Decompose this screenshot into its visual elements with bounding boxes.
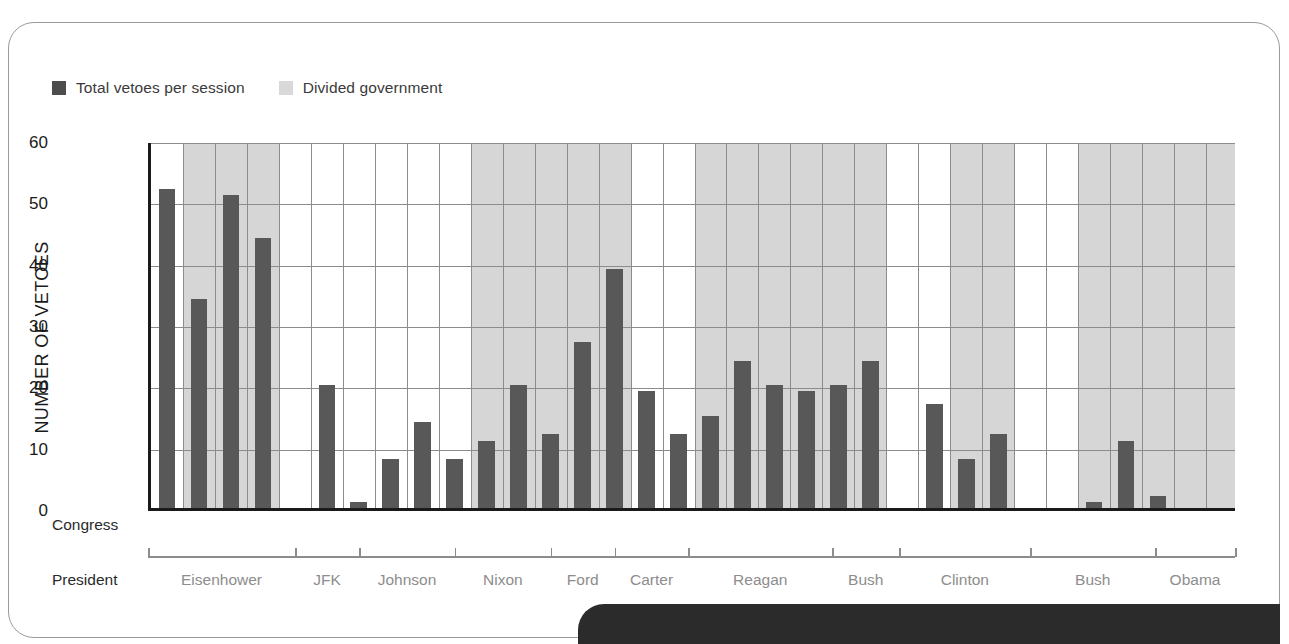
bar: [223, 195, 240, 508]
legend-item-total-vetoes: Total vetoes per session: [52, 79, 245, 97]
gridline-vertical: [343, 143, 344, 508]
president-tick: [688, 548, 690, 557]
president-label: Eisenhower: [181, 571, 262, 589]
gridline-vertical: [631, 143, 632, 508]
gridline-vertical: [695, 143, 696, 508]
gridline-horizontal: [151, 327, 1235, 328]
congress-axis: 85th90th95th100th105th110th: [0, 513, 1289, 543]
gridline-vertical: [1046, 143, 1047, 508]
gridline-vertical: [183, 143, 184, 508]
bar: [414, 422, 431, 508]
president-tick: [899, 548, 901, 557]
gridline-horizontal: [151, 450, 1235, 451]
president-tick: [1235, 548, 1237, 557]
bar: [542, 434, 559, 508]
president-tick: [359, 548, 361, 557]
president-label: Carter: [630, 571, 673, 589]
bar: [926, 404, 943, 508]
bar: [702, 416, 719, 508]
legend-swatch-icon-total-vetoes: [52, 81, 66, 95]
y-axis-tick-label: 30: [0, 317, 48, 337]
president-label: Nixon: [483, 571, 523, 589]
gridline-vertical: [375, 143, 376, 508]
bar: [191, 299, 208, 508]
gridline-vertical: [439, 143, 440, 508]
bar: [606, 269, 623, 508]
gridline-horizontal: [151, 388, 1235, 389]
gridline-vertical: [1206, 143, 1207, 508]
bar: [1086, 502, 1103, 508]
bar: [766, 385, 783, 508]
gridline-vertical: [279, 143, 280, 508]
bar: [350, 502, 367, 508]
president-label: Bush: [1075, 571, 1110, 589]
bar: [990, 434, 1007, 508]
president-row-title: President: [52, 571, 117, 589]
president-label: Clinton: [941, 571, 989, 589]
president-label: Ford: [567, 571, 599, 589]
gridline-horizontal: [151, 143, 1235, 144]
president-tick: [1155, 548, 1157, 557]
president-label: Obama: [1170, 571, 1221, 589]
gridline-vertical: [1014, 143, 1015, 508]
president-axis-line: [148, 556, 1235, 558]
bar: [510, 385, 527, 508]
y-axis-tick-label: 40: [0, 256, 48, 276]
bar: [958, 459, 975, 508]
gridline-vertical: [726, 143, 727, 508]
gridline-horizontal: [151, 204, 1235, 205]
bar: [1118, 441, 1135, 508]
gridline-vertical: [758, 143, 759, 508]
gridline-vertical: [1078, 143, 1079, 508]
bar: [382, 459, 399, 508]
y-axis-tick-label: 50: [0, 194, 48, 214]
bar: [255, 238, 272, 508]
gridline-vertical: [567, 143, 568, 508]
gridline-vertical: [1142, 143, 1143, 508]
bar: [830, 385, 847, 508]
y-axis-tick-label: 20: [0, 378, 48, 398]
gridline-vertical: [311, 143, 312, 508]
bar: [159, 189, 176, 508]
y-axis-tick-label: 60: [0, 133, 48, 153]
chart-legend: Total vetoes per session Divided governm…: [52, 78, 442, 98]
bar: [862, 361, 879, 508]
divided-government-band: [1078, 143, 1235, 508]
bar: [670, 434, 687, 508]
gridline-vertical: [982, 143, 983, 508]
president-tick: [615, 548, 617, 557]
president-tick: [551, 548, 553, 557]
gridline-vertical: [503, 143, 504, 508]
bar: [798, 391, 815, 508]
president-tick: [455, 548, 457, 557]
bar: [446, 459, 463, 508]
vetoes-chart: Total vetoes per session Divided governm…: [0, 0, 1289, 644]
gridline-vertical: [663, 143, 664, 508]
plot-area: [148, 143, 1235, 511]
gridline-vertical: [1174, 143, 1175, 508]
y-axis-tick-label: 10: [0, 440, 48, 460]
gridline-vertical: [822, 143, 823, 508]
gridline-vertical: [854, 143, 855, 508]
gridline-vertical: [1110, 143, 1111, 508]
president-label: Johnson: [378, 571, 437, 589]
legend-label-divided-government: Divided government: [303, 79, 443, 97]
president-label: Bush: [848, 571, 883, 589]
legend-item-divided-government: Divided government: [279, 79, 443, 97]
bar: [1150, 496, 1167, 508]
bar: [574, 342, 591, 508]
president-tick: [295, 548, 297, 557]
gridline-vertical: [471, 143, 472, 508]
gridline-vertical: [215, 143, 216, 508]
gridline-vertical: [950, 143, 951, 508]
president-label: Reagan: [733, 571, 787, 589]
gridline-vertical: [599, 143, 600, 508]
gridline-vertical: [886, 143, 887, 508]
gridline-vertical: [918, 143, 919, 508]
bar: [734, 361, 751, 508]
legend-swatch-icon-divided-government: [279, 81, 293, 95]
bottom-decorative-bar: [578, 604, 1280, 644]
gridline-vertical: [790, 143, 791, 508]
gridline-vertical: [407, 143, 408, 508]
bar: [478, 441, 495, 508]
